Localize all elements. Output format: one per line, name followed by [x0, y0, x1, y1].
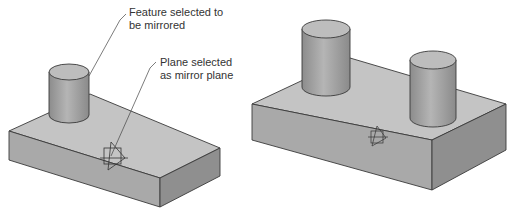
callout-plane: Plane selected as mirror plane — [160, 56, 233, 82]
before-model — [0, 0, 508, 208]
right-base-block — [252, 58, 506, 190]
plane-leader-tick — [150, 62, 156, 68]
callout-feature: Feature selected to be mirrored — [129, 6, 223, 32]
left-base-block — [9, 94, 220, 207]
feature-leader-line — [89, 20, 120, 76]
right-cylinder-mirrored — [410, 51, 456, 127]
callout-plane-line2: as mirror plane — [160, 69, 233, 82]
left-cylinder-feature — [49, 64, 89, 123]
callout-plane-line1: Plane selected — [160, 56, 233, 69]
callout-feature-line2: be mirrored — [129, 19, 223, 32]
callout-feature-line1: Feature selected to — [129, 6, 223, 19]
feature-leader-tick — [120, 14, 126, 20]
right-cylinder-original — [302, 20, 350, 96]
